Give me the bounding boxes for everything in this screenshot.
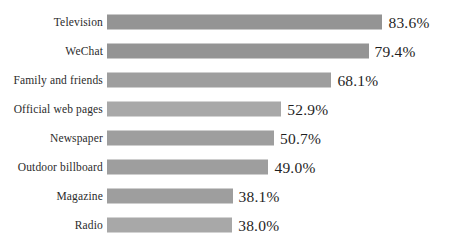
category-label: Magazine: [56, 189, 103, 202]
bar-row: Newspaper50.7%: [0, 123, 450, 152]
bar-value-label: 83.6%: [388, 13, 429, 30]
category-label: Outdoor billboard: [18, 160, 103, 173]
bar-row: Official web pages52.9%: [0, 94, 450, 123]
bar: [107, 72, 331, 87]
bar-fill: [107, 130, 274, 145]
bar-fill: [107, 14, 382, 29]
bar-chart: Television83.6%WeChat79.4%Family and fri…: [0, 0, 450, 243]
bar-row: Radio38.0%: [0, 210, 450, 239]
bar: [107, 188, 233, 203]
bar-fill: [107, 217, 232, 232]
bar-value-label: 68.1%: [337, 71, 378, 88]
bar: [107, 130, 274, 145]
bar-value-label: 52.9%: [287, 100, 328, 117]
bar-row: Television83.6%: [0, 7, 450, 36]
bar-value-label: 79.4%: [375, 42, 416, 59]
category-label: Television: [54, 15, 103, 28]
bar-fill: [107, 188, 233, 203]
chart-plot-area: Television83.6%WeChat79.4%Family and fri…: [0, 0, 450, 243]
category-label: Newspaper: [50, 131, 103, 144]
bar: [107, 159, 268, 174]
bar-fill: [107, 101, 281, 116]
bar-row: Magazine38.1%: [0, 181, 450, 210]
bar-fill: [107, 159, 268, 174]
bar-row: WeChat79.4%: [0, 36, 450, 65]
category-label: Family and friends: [13, 73, 103, 86]
bar-value-label: 38.1%: [239, 187, 280, 204]
bar: [107, 43, 369, 58]
bar-fill: [107, 72, 331, 87]
bar-value-label: 38.0%: [238, 216, 279, 233]
category-label: Radio: [75, 218, 103, 231]
bar-fill: [107, 43, 369, 58]
bar: [107, 217, 232, 232]
bar-row: Family and friends68.1%: [0, 65, 450, 94]
bar-value-label: 50.7%: [280, 129, 321, 146]
bar-row: Outdoor billboard49.0%: [0, 152, 450, 181]
bar: [107, 14, 382, 29]
bar: [107, 101, 281, 116]
category-label: Official web pages: [14, 102, 103, 115]
bar-value-label: 49.0%: [274, 158, 315, 175]
category-label: WeChat: [65, 44, 103, 57]
